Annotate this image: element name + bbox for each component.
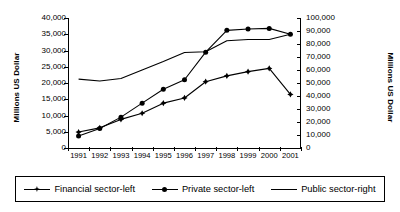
y-axis-right-tick: 20,000 bbox=[306, 118, 330, 126]
chart-screenshot: Millions US Dollar Millions US Dollar 40… bbox=[0, 0, 400, 212]
x-axis-tick: 2001 bbox=[277, 152, 303, 160]
y-axis-left-tick: 40,000 bbox=[42, 14, 66, 22]
y-axis-left-tick: 25,000 bbox=[42, 63, 66, 71]
y-axis-right-tick: 90,000 bbox=[306, 27, 330, 35]
legend-label: Public sector-right bbox=[301, 184, 375, 194]
y-axis-left-tick: 5,000 bbox=[46, 128, 66, 136]
series-line bbox=[79, 34, 291, 81]
y-axis-right-tick: 50,000 bbox=[306, 79, 330, 87]
series-marker bbox=[118, 115, 123, 120]
y-axis-left-tick: 35,000 bbox=[42, 30, 66, 38]
y-axis-left-tick: 30,000 bbox=[42, 47, 66, 55]
series-marker bbox=[76, 133, 81, 138]
y-axis-right-title: Millions US Dollar bbox=[386, 43, 395, 133]
y-axis-right-tick: 0 bbox=[306, 144, 310, 152]
y-axis-left-tick: 20,000 bbox=[42, 79, 66, 87]
legend-swatch-icon bbox=[271, 184, 297, 194]
series-marker bbox=[97, 126, 102, 131]
series-marker bbox=[224, 73, 230, 79]
series-marker bbox=[161, 87, 166, 92]
legend-item-2[interactable]: Public sector-right bbox=[271, 184, 375, 194]
y-axis-left-tick: 15,000 bbox=[42, 95, 66, 103]
y-axis-right-tick: 40,000 bbox=[306, 92, 330, 100]
y-axis-right-tick: 30,000 bbox=[306, 105, 330, 113]
series-marker bbox=[140, 101, 145, 106]
y-axis-right-tick: 10,000 bbox=[306, 131, 330, 139]
y-axis-left-tick: 10,000 bbox=[42, 112, 66, 120]
legend-swatch-icon bbox=[152, 184, 178, 194]
series-marker bbox=[224, 28, 229, 33]
y-axis-right-tick: 70,000 bbox=[306, 53, 330, 61]
y-axis-right-tick: 80,000 bbox=[306, 40, 330, 48]
legend-swatch-icon bbox=[24, 184, 50, 194]
series-marker bbox=[245, 69, 251, 75]
y-axis-right-tick: 100,000 bbox=[306, 14, 335, 22]
series-marker bbox=[139, 110, 145, 116]
series-plot-area bbox=[68, 18, 301, 148]
chart-legend: Financial sector-leftPrivate sector-left… bbox=[15, 176, 385, 202]
y-axis-left-title: Millions US Dollar bbox=[12, 43, 21, 133]
series-marker bbox=[160, 100, 166, 106]
legend-label: Private sector-left bbox=[182, 184, 254, 194]
series-marker bbox=[182, 77, 187, 82]
legend-label: Financial sector-left bbox=[54, 184, 135, 194]
legend-item-1[interactable]: Private sector-left bbox=[152, 184, 254, 194]
series-svg bbox=[68, 18, 301, 148]
y-axis-right-tick: 60,000 bbox=[306, 66, 330, 74]
series-marker bbox=[246, 27, 251, 32]
series-marker bbox=[267, 26, 272, 31]
chart-plot-region: Millions US Dollar Millions US Dollar 40… bbox=[0, 0, 400, 170]
legend-item-0[interactable]: Financial sector-left bbox=[24, 184, 135, 194]
